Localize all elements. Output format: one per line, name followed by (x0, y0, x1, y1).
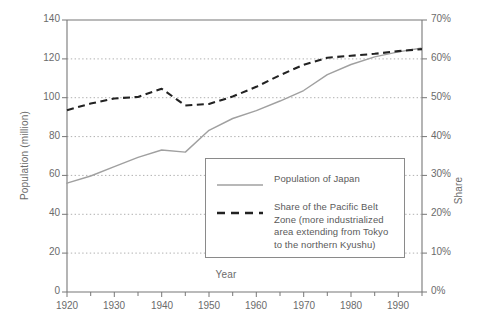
y-tick-label-left: 140 (20, 13, 60, 24)
solid-line-key (216, 177, 264, 189)
x-tick-label: 1980 (331, 300, 371, 311)
x-tick-label: 1970 (284, 300, 324, 311)
x-tick-label: 1930 (94, 300, 134, 311)
x-tick-label: 1940 (142, 300, 182, 311)
y-tick-label-left: 0 (20, 285, 60, 296)
legend-item-share: Share of the Pacific Belt Zone (more ind… (216, 201, 388, 251)
right-axis-ticks (422, 20, 427, 292)
x-tick-label: 1960 (236, 300, 276, 311)
x-tick-label: 1990 (378, 300, 418, 311)
legend-item-population: Population of Japan (216, 173, 360, 186)
chart-container: 140 120 100 80 60 40 20 0 70% 60% 50% 40… (0, 0, 481, 327)
x-tick-label: 1950 (189, 300, 229, 311)
y-axis-title-left: Population (million) (19, 76, 30, 236)
legend-label-share: Share of the Pacific Belt Zone (more ind… (274, 201, 388, 251)
x-axis-title: Year (186, 269, 266, 280)
x-axis-ticks (67, 292, 422, 297)
legend-label-population: Population of Japan (274, 173, 360, 186)
y-tick-label-left: 20 (20, 246, 60, 257)
y-tick-label-right: 60% (431, 52, 473, 63)
dashed-line-key (216, 205, 264, 217)
y-tick-label-right: 70% (431, 13, 473, 24)
y-tick-label-right: 0% (431, 285, 473, 296)
left-axis-ticks (62, 20, 67, 292)
y-axis-title-right: Share (453, 131, 464, 251)
x-tick-label: 1920 (47, 300, 87, 311)
y-tick-label-right: 50% (431, 91, 473, 102)
legend: Population of Japan Share of the Pacific… (205, 158, 405, 258)
y-tick-label-left: 120 (20, 52, 60, 63)
